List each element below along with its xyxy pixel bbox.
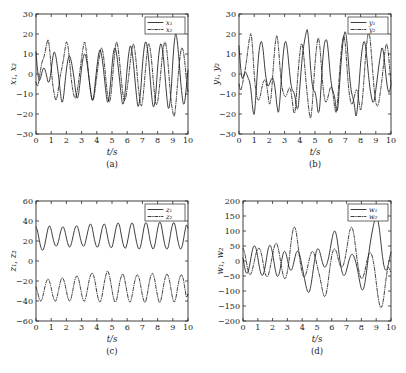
svg-text:7: 7 (140, 323, 145, 332)
series-z₁ (36, 222, 188, 250)
svg-text:200: 200 (225, 197, 240, 206)
svg-text:150: 150 (225, 212, 240, 221)
svg-text:t/s: t/s (312, 334, 323, 344)
svg-text:−10: −10 (16, 90, 33, 99)
svg-text:60: 60 (23, 197, 33, 206)
svg-text:−20: −20 (219, 110, 236, 119)
svg-text:1: 1 (255, 323, 260, 332)
svg-text:1: 1 (49, 136, 54, 145)
svg-text:5: 5 (314, 323, 319, 332)
svg-text:z₁, z₂: z₁, z₂ (8, 250, 18, 273)
svg-text:20: 20 (226, 30, 236, 39)
svg-text:8: 8 (358, 136, 363, 145)
svg-text:2: 2 (270, 323, 275, 332)
svg-text:30: 30 (226, 10, 236, 19)
svg-text:2: 2 (64, 136, 69, 145)
series-x₁ (36, 34, 188, 108)
svg-text:10: 10 (386, 323, 396, 332)
svg-text:4: 4 (300, 323, 305, 332)
svg-text:w₂: w₂ (369, 213, 378, 221)
svg-text:8: 8 (359, 323, 364, 332)
svg-text:−200: −200 (218, 317, 240, 326)
svg-text:0: 0 (28, 70, 33, 79)
panel-a-plot: 012345678910−30−20−100102030x₁x₂t/sx₁, x… (0, 0, 203, 186)
svg-text:4: 4 (94, 323, 99, 332)
series-z₂ (36, 271, 188, 302)
svg-text:−50: −50 (223, 272, 240, 281)
svg-text:20: 20 (23, 30, 33, 39)
panel-d: 012345678910−200−150−100−50050100150200w… (203, 186, 406, 372)
svg-text:−40: −40 (16, 297, 33, 306)
svg-text:9: 9 (373, 136, 378, 145)
svg-text:y₂: y₂ (368, 26, 376, 34)
svg-text:7: 7 (343, 136, 348, 145)
svg-text:−60: −60 (16, 317, 33, 326)
svg-text:−20: −20 (16, 277, 33, 286)
svg-text:0: 0 (240, 323, 245, 332)
panel-a: 012345678910−30−20−100102030x₁x₂t/sx₁, x… (0, 0, 203, 186)
svg-text:7: 7 (140, 136, 145, 145)
svg-text:10: 10 (23, 50, 33, 59)
svg-text:7: 7 (344, 323, 349, 332)
svg-text:0: 0 (28, 257, 33, 266)
svg-text:4: 4 (94, 136, 99, 145)
svg-text:8: 8 (155, 323, 160, 332)
svg-text:0: 0 (235, 257, 240, 266)
svg-text:6: 6 (125, 323, 130, 332)
svg-text:x₁, x₂: x₁, x₂ (8, 63, 18, 85)
svg-text:−10: −10 (219, 90, 236, 99)
panel-c-plot: 012345678910−60−40−200204060z₁z₂t/sz₁, z… (0, 186, 203, 373)
svg-text:3: 3 (79, 136, 84, 145)
svg-text:2: 2 (267, 136, 272, 145)
svg-text:(d): (d) (311, 346, 323, 356)
svg-text:−100: −100 (218, 287, 240, 296)
svg-text:−30: −30 (16, 130, 33, 139)
svg-text:10: 10 (226, 50, 236, 59)
svg-text:t/s: t/s (310, 147, 321, 157)
svg-text:0: 0 (236, 136, 241, 145)
svg-text:−20: −20 (16, 110, 33, 119)
svg-text:20: 20 (23, 237, 33, 246)
svg-text:5: 5 (312, 136, 317, 145)
svg-text:w₁, w₂: w₁, w₂ (215, 247, 225, 274)
svg-text:0: 0 (33, 136, 38, 145)
svg-text:3: 3 (79, 323, 84, 332)
svg-text:(b): (b) (309, 159, 321, 169)
panel-b-plot: 012345678910−30−20−100102030y₁y₂t/sy₁, y… (203, 0, 406, 186)
svg-text:t/s: t/s (107, 147, 118, 157)
svg-text:−30: −30 (219, 130, 236, 139)
svg-text:4: 4 (297, 136, 302, 145)
svg-text:8: 8 (155, 136, 160, 145)
svg-text:0: 0 (33, 323, 38, 332)
svg-text:(a): (a) (106, 159, 118, 169)
svg-text:6: 6 (329, 323, 334, 332)
svg-text:(c): (c) (106, 346, 117, 356)
svg-text:3: 3 (282, 136, 287, 145)
svg-text:−150: −150 (218, 302, 240, 311)
panel-d-plot: 012345678910−200−150−100−50050100150200w… (203, 186, 406, 373)
svg-text:0: 0 (231, 70, 236, 79)
svg-text:9: 9 (170, 323, 175, 332)
svg-text:y₁, y₂: y₁, y₂ (211, 62, 221, 85)
figure-four-panel-timeseries: 012345678910−30−20−100102030x₁x₂t/sx₁, x… (0, 0, 406, 373)
svg-text:1: 1 (49, 323, 54, 332)
svg-text:1: 1 (252, 136, 257, 145)
svg-text:6: 6 (328, 136, 333, 145)
svg-text:40: 40 (23, 217, 33, 226)
svg-text:30: 30 (23, 10, 33, 19)
svg-text:10: 10 (183, 136, 193, 145)
svg-text:9: 9 (170, 136, 175, 145)
svg-text:t/s: t/s (107, 334, 118, 344)
svg-text:5: 5 (109, 136, 114, 145)
panel-c: 012345678910−60−40−200204060z₁z₂t/sz₁, z… (0, 186, 203, 372)
svg-text:50: 50 (230, 242, 240, 251)
panel-b: 012345678910−30−20−100102030y₁y₂t/sy₁, y… (203, 0, 406, 186)
svg-text:10: 10 (386, 136, 396, 145)
svg-text:6: 6 (125, 136, 130, 145)
svg-text:3: 3 (285, 323, 290, 332)
svg-text:9: 9 (374, 323, 379, 332)
svg-text:2: 2 (64, 323, 69, 332)
series-y₁ (239, 30, 391, 116)
svg-text:10: 10 (183, 323, 193, 332)
svg-text:z₂: z₂ (165, 213, 172, 221)
